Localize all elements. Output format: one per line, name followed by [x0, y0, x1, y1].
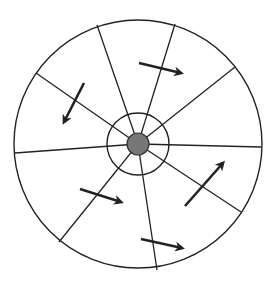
arrow-icon	[185, 163, 223, 206]
arrow-icon	[64, 83, 84, 122]
center-core	[127, 133, 149, 155]
arrow-icon	[141, 239, 182, 248]
radial-sector-diagram	[0, 0, 272, 285]
